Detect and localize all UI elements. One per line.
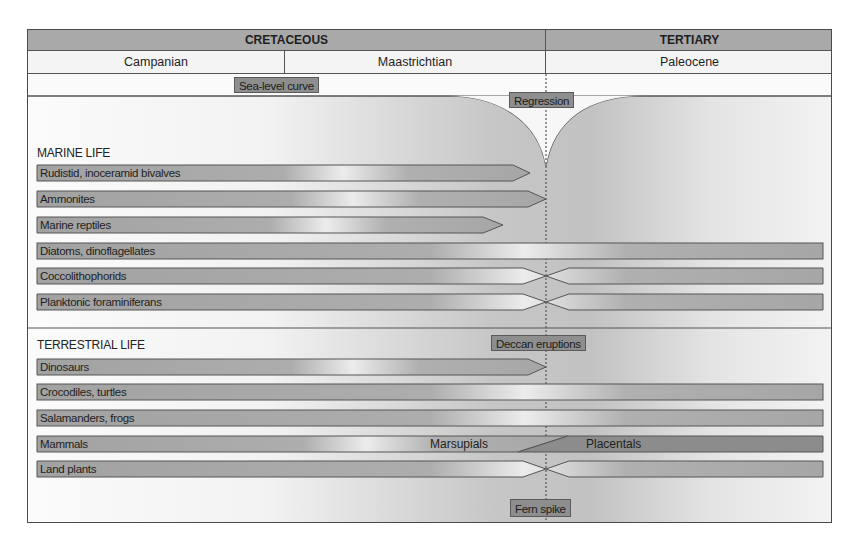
terrestrial-row-label: Salamanders, frogs: [40, 410, 134, 426]
fern-spike-tag: Fern spike: [510, 499, 571, 517]
bar-salamanders-frogs: [37, 410, 823, 426]
terrestrial-life-heading: TERRESTRIAL LIFE: [37, 338, 145, 352]
era-row: CRETACEOUS TERTIARY: [28, 30, 831, 51]
bar-ammonites: [37, 191, 546, 207]
terrestrial-row-label: Mammals: [40, 436, 88, 452]
marine-row-label: Diatoms, dinoflagellates: [40, 243, 155, 259]
stage-campanian: Campanian: [28, 51, 285, 73]
terrestrial-row-label: Land plants: [40, 461, 96, 477]
marine-row-label: Marine reptiles: [40, 217, 111, 233]
stage-row: Campanian Maastrichtian Paleocene: [28, 51, 831, 74]
marine-row-label: Planktonic foraminiferans: [40, 294, 162, 310]
marine-row-label: Ammonites: [40, 191, 95, 207]
stage-maastrichtian: Maastrichtian: [285, 51, 546, 73]
marine-row-label: Rudistid, inoceramid bivalves: [40, 165, 180, 181]
era-cretaceous: CRETACEOUS: [28, 30, 546, 50]
deccan-eruptions-tag: Deccan eruptions: [491, 335, 586, 351]
era-tertiary: TERTIARY: [546, 30, 832, 50]
regression-tag: Regression: [509, 92, 574, 108]
placentals-label: Placentals: [586, 436, 641, 452]
bar-crocodiles-turtles: [37, 384, 823, 400]
terrestrial-row-label: Crocodiles, turtles: [40, 384, 126, 400]
terrestrial-row-label: Dinosaurs: [40, 359, 89, 375]
marsupials-label: Marsupials: [430, 436, 488, 452]
bar-coccolithophorids: [37, 268, 823, 284]
marine-row-label: Coccolithophorids: [40, 268, 126, 284]
sea-level-curve-tag: Sea-level curve: [234, 77, 319, 93]
bar-land-plants: [37, 461, 823, 477]
bar-dinosaurs: [37, 359, 546, 375]
kt-boundary-diagram: CRETACEOUS TERTIARY Campanian Maastricht…: [27, 29, 832, 523]
stage-paleocene: Paleocene: [546, 51, 832, 73]
bar-mammals-placentals: [518, 436, 823, 452]
bar-mammals-marsupials: [37, 436, 568, 452]
marine-life-heading: MARINE LIFE: [37, 146, 110, 160]
